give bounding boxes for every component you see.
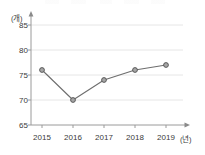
chart-canvas xyxy=(0,0,205,155)
data-point-2019 xyxy=(164,63,169,68)
data-point-2017 xyxy=(102,78,107,83)
data-point-2018 xyxy=(133,68,138,73)
data-point-2015 xyxy=(40,68,45,73)
line-chart: (개) (년) 85 80 75 70 65 2015 2016 2017 20… xyxy=(0,0,205,155)
data-point-markers xyxy=(40,63,169,103)
gridlines xyxy=(31,25,183,100)
y-axis xyxy=(29,11,34,125)
data-point-2016 xyxy=(71,98,76,103)
